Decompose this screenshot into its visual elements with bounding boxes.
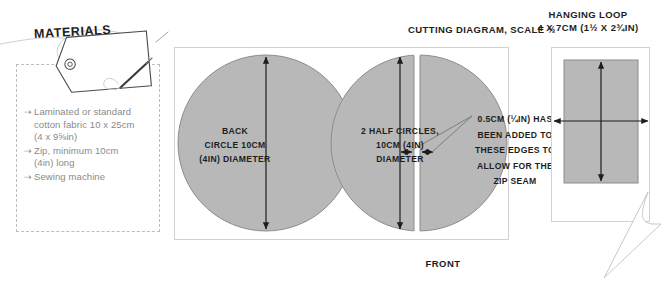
pattern-sheet: MATERIALS ⇢ Laminated or standard cotton… xyxy=(0,0,661,284)
page-curl-icon xyxy=(0,0,661,284)
